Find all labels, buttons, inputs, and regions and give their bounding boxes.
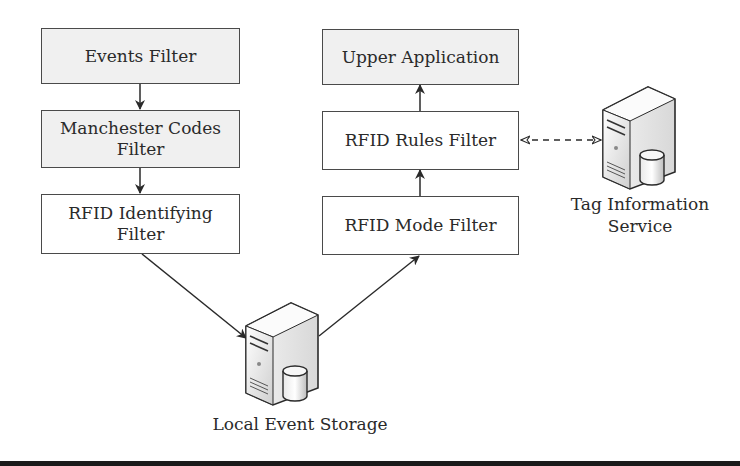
manchester-label-line1: Manchester Codes	[60, 118, 221, 139]
manchester-codes-filter-box: Manchester Codes Filter	[41, 110, 240, 168]
bottom-border-bar	[0, 461, 740, 466]
local-event-storage-label: Local Event Storage	[200, 413, 400, 435]
events-filter-label: Events Filter	[85, 46, 197, 67]
identifying-label-line1: RFID Identifying	[68, 203, 212, 224]
tag-label-line2: Service	[560, 215, 720, 237]
rfid-mode-filter-box: RFID Mode Filter	[322, 196, 519, 255]
upper-application-label: Upper Application	[342, 47, 500, 68]
tag-information-service-server-icon	[603, 87, 675, 189]
edge-identifying-to-storage	[142, 254, 246, 338]
rfid-mode-filter-label: RFID Mode Filter	[344, 215, 496, 236]
rfid-rules-filter-label: RFID Rules Filter	[345, 130, 496, 151]
manchester-label-line2: Filter	[117, 139, 165, 160]
edge-storage-to-mode	[319, 256, 419, 336]
rfid-rules-filter-box: RFID Rules Filter	[322, 111, 519, 170]
identifying-label-line2: Filter	[117, 224, 165, 245]
rfid-identifying-filter-box: RFID Identifying Filter	[41, 194, 240, 254]
events-filter-box: Events Filter	[41, 28, 240, 84]
tag-label-line1: Tag Information	[560, 193, 720, 215]
local-event-storage-server-icon	[246, 303, 318, 405]
tag-information-service-label: Tag Information Service	[560, 193, 720, 237]
upper-application-box: Upper Application	[322, 29, 519, 85]
